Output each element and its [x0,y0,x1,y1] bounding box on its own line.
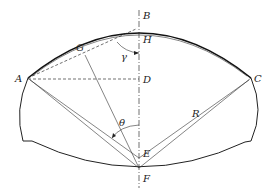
label-B: B [142,10,150,21]
label-H: H [142,34,152,45]
label-G: G [76,42,84,53]
line-GF [85,55,139,168]
bottom-invert-arch [32,141,245,167]
gamma-arrowhead [134,51,139,55]
label-R: R [191,108,200,119]
right-side-wall [245,78,258,142]
left-side-wall [19,78,32,141]
upper-arch-outer [28,33,251,78]
upper-arch-inner [32,35,247,76]
theta-angle-arc [112,125,139,138]
label-F: F [142,173,151,184]
chord-AH [28,29,136,78]
label-theta: θ [119,117,125,128]
arch-geometry-diagram: B H G γ A D C R θ E F [0,0,275,193]
label-C: C [254,73,262,84]
label-E: E [142,148,151,159]
radius-CE [139,80,249,158]
label-gamma: γ [121,51,127,62]
label-A: A [14,73,22,84]
radius-CF [139,78,251,168]
label-D: D [142,74,151,85]
